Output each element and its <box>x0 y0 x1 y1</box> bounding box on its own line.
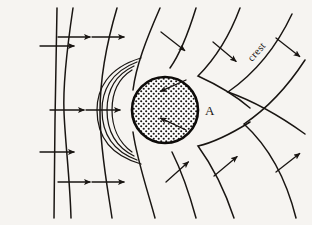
label-point-a: A <box>205 103 215 118</box>
circular-island <box>132 77 198 143</box>
figure-canvas: A crest <box>0 0 312 225</box>
wave-refraction-figure: A crest <box>0 0 312 225</box>
